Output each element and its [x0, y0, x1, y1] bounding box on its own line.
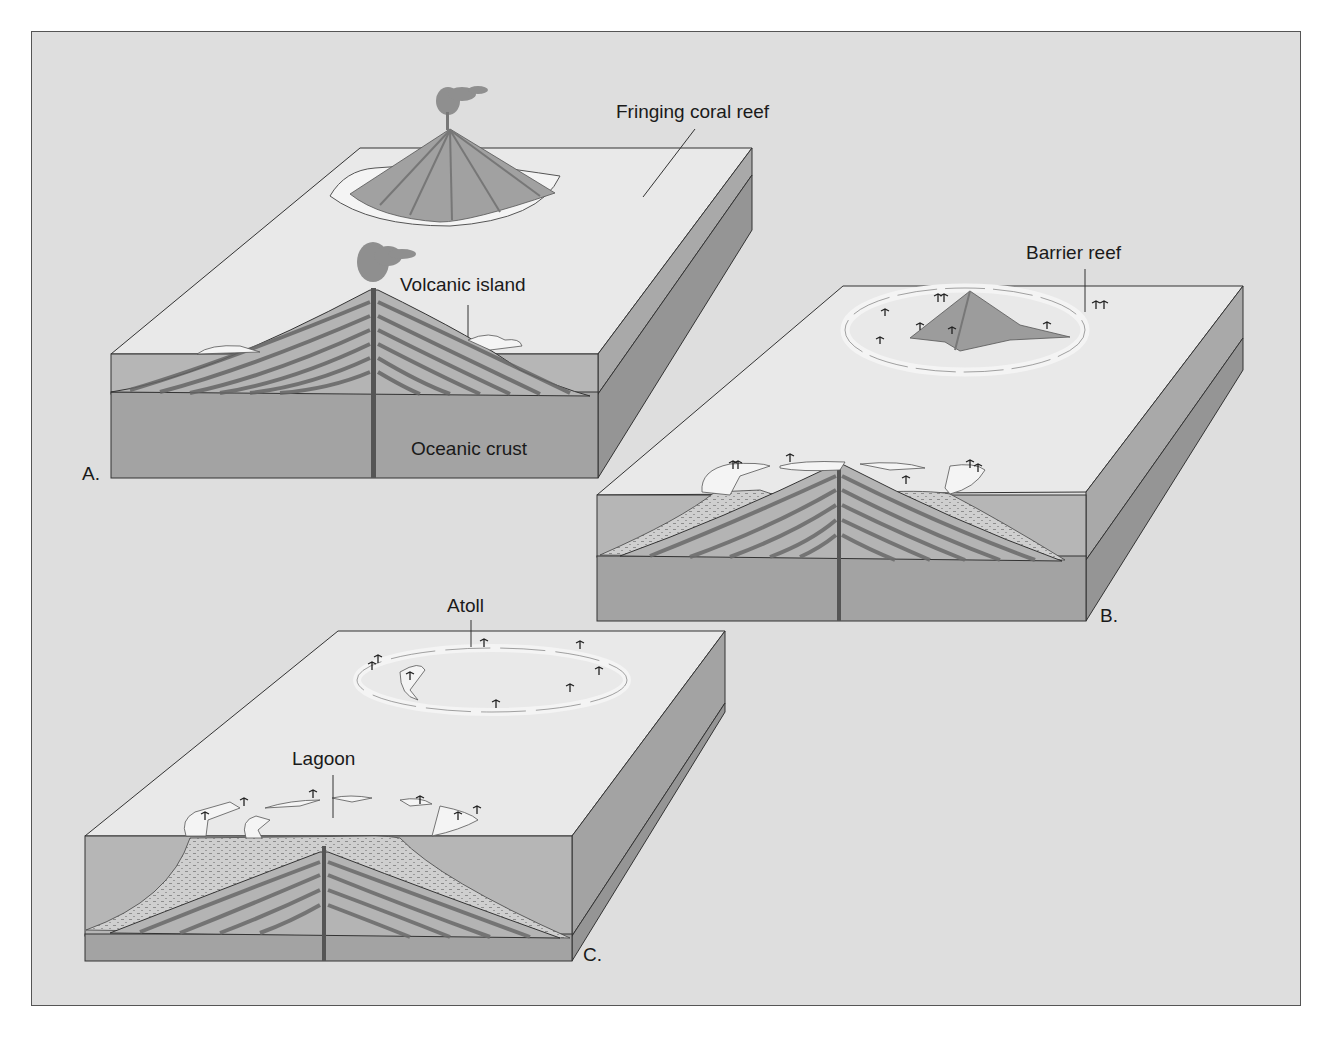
block-c: [85, 620, 725, 961]
block-a-front-crust: [111, 392, 598, 478]
block-c-front-crust: [85, 934, 572, 961]
block-b-vent: [837, 464, 841, 621]
block-c-vent: [322, 846, 326, 961]
volcanic-island-label: Volcanic island: [400, 275, 526, 294]
reef-formation-diagram: [0, 0, 1327, 1037]
lagoon-label: Lagoon: [292, 749, 355, 768]
block-a-vent: [371, 288, 376, 478]
barrier-reef-label: Barrier reef: [1026, 243, 1121, 262]
panel-a-letter: A.: [82, 464, 100, 483]
panel-c-letter: C.: [583, 945, 602, 964]
block-b-front-crust: [597, 556, 1086, 621]
atoll-label: Atoll: [447, 596, 484, 615]
panel-b-letter: B.: [1100, 606, 1118, 625]
oceanic-crust-label: Oceanic crust: [411, 439, 527, 458]
block-a-plan-plume: [436, 86, 488, 115]
fringing-coral-reef-label: Fringing coral reef: [616, 102, 769, 121]
